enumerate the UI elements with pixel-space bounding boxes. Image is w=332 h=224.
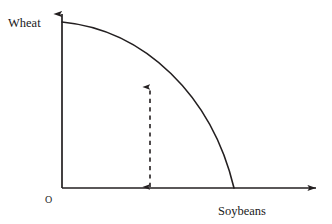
ppf-curve <box>62 22 234 188</box>
y-axis-label: Wheat <box>8 16 41 30</box>
origin-label: O <box>45 194 52 205</box>
ppf-chart-canvas: Wheat Soybeans O <box>0 0 332 224</box>
ppf-diagram: Wheat Soybeans O <box>0 0 332 224</box>
x-axis-label: Soybeans <box>218 204 266 218</box>
